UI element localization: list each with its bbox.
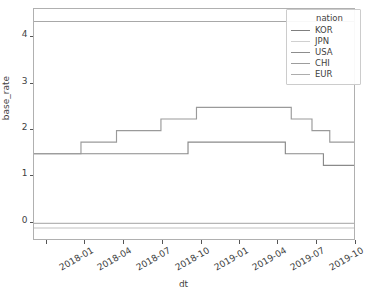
y-tick-label: 3 [22, 77, 28, 86]
x-tick-mark [239, 240, 240, 244]
y-tick-label: 2 [22, 123, 28, 132]
legend-swatch-usa [291, 52, 310, 53]
x-tick-mark [46, 240, 47, 244]
legend-label-eur: EUR [315, 69, 333, 80]
x-tick-mark [201, 240, 202, 244]
x-tick-label: 2019-04 [251, 246, 288, 273]
x-tick-label: 2018-01 [58, 246, 95, 273]
x-tick-label: 2018-04 [96, 246, 133, 273]
x-tick-mark [162, 240, 163, 244]
legend-entries: KORJPNUSACHIEUR [291, 25, 356, 80]
legend-item-chi[interactable]: CHI [291, 58, 356, 69]
legend-swatch-jpn [291, 41, 310, 42]
y-tick-label: 1 [22, 169, 28, 178]
y-tick-label: 0 [22, 216, 28, 225]
x-tick-mark [84, 240, 85, 244]
x-tick-label: 2018-10 [174, 246, 211, 273]
x-tick-mark [123, 240, 124, 244]
series-line-usa [34, 107, 355, 153]
legend-swatch-kor [291, 30, 310, 31]
legend-label-chi: CHI [315, 58, 330, 69]
x-tick-mark [316, 240, 317, 244]
x-tick-mark [355, 240, 356, 244]
figure-canvas: 01234 base_rate 2018-012018-042018-07201… [0, 0, 367, 297]
legend-label-jpn: JPN [315, 36, 329, 47]
x-tick-label: 2018-07 [135, 246, 172, 273]
legend-title: nation [291, 13, 356, 24]
legend-item-jpn[interactable]: JPN [291, 36, 356, 47]
legend-label-usa: USA [315, 47, 333, 58]
legend-swatch-chi [291, 63, 310, 64]
legend-item-usa[interactable]: USA [291, 47, 356, 58]
x-tick-label: 2019-10 [328, 246, 365, 273]
legend-swatch-eur [291, 74, 310, 75]
series-line-kor [34, 142, 355, 165]
y-axis-label: base_rate [1, 76, 11, 120]
legend[interactable]: nation KORJPNUSACHIEUR [286, 9, 361, 85]
legend-item-eur[interactable]: EUR [291, 69, 356, 80]
y-tick-label: 4 [22, 30, 28, 39]
x-tick-mark [277, 240, 278, 244]
legend-item-kor[interactable]: KOR [291, 25, 356, 36]
x-tick-label: 2019-01 [213, 246, 250, 273]
x-axis-label: dt [0, 279, 367, 289]
x-tick-label: 2019-07 [289, 246, 326, 273]
legend-label-kor: KOR [315, 25, 333, 36]
